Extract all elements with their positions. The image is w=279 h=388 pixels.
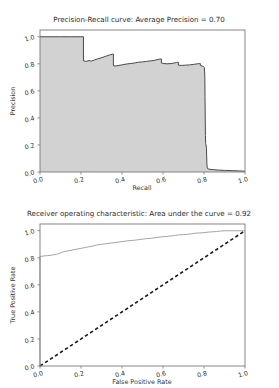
precision-recall-title: Precision-Recall curve: Average Precisio…	[53, 15, 225, 24]
y-tick-label: 1.0	[24, 227, 35, 236]
y-axis-label: True Positive Rate	[9, 266, 17, 324]
roc-figure: Receiver operating characteristic: Area …	[0, 194, 279, 388]
x-tick-label: 0.2	[73, 175, 84, 184]
y-tick-label: 0.4	[24, 308, 35, 317]
y-tick-label: 0.4	[24, 114, 35, 123]
y-axis-label: Precision	[9, 87, 17, 116]
precision-recall-plot-area	[40, 37, 245, 172]
roc-svg: Receiver operating characteristic: Area …	[0, 194, 279, 388]
x-axis-label: False Positive Rate	[112, 378, 171, 386]
y-tick-label: 0.2	[24, 335, 35, 344]
chance-diagonal-line	[40, 231, 245, 366]
precision-recall-area-fill	[40, 37, 245, 172]
x-tick-label: 0.8	[196, 369, 207, 378]
x-tick-label: 1.0	[237, 369, 248, 378]
y-tick-label: 0.6	[24, 87, 35, 96]
y-tick-label: 0.6	[24, 281, 35, 290]
precision-recall-figure: Precision-Recall curve: Average Precisio…	[0, 0, 279, 194]
roc-axes	[37, 224, 245, 369]
x-axis-label: Recall	[132, 184, 151, 192]
roc-title: Receiver operating characteristic: Area …	[27, 209, 251, 218]
y-tick-label: 0.8	[24, 254, 35, 263]
plot-frame	[40, 224, 245, 366]
y-tick-label: 0.0	[24, 362, 35, 371]
y-tick-labels: 0.00.20.40.60.81.0	[24, 33, 35, 177]
precision-recall-svg: Precision-Recall curve: Average Precisio…	[0, 0, 279, 194]
x-tick-label: 0.0	[32, 175, 43, 184]
y-tick-label: 0.0	[24, 168, 35, 177]
y-tick-label: 0.8	[24, 60, 35, 69]
x-tick-label: 0.6	[155, 175, 166, 184]
x-tick-label: 0.4	[114, 175, 125, 184]
y-tick-labels: 0.00.20.40.60.81.0	[24, 227, 35, 371]
roc-plot-area	[40, 231, 245, 366]
x-tick-label: 0.0	[32, 369, 43, 378]
x-tick-label: 0.8	[196, 175, 207, 184]
y-tick-label: 0.2	[24, 141, 35, 150]
y-tick-label: 1.0	[24, 33, 35, 42]
x-tick-label: 0.2	[73, 369, 84, 378]
x-tick-label: 1.0	[237, 175, 248, 184]
